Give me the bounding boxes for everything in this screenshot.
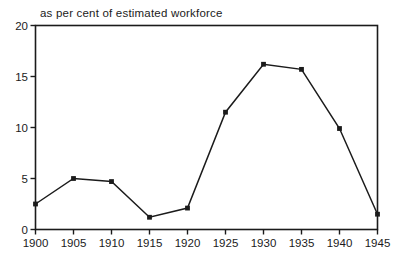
x-tick-label: 1900 xyxy=(23,237,49,249)
plot-box xyxy=(36,26,378,230)
y-tick-label: 0 xyxy=(22,224,28,236)
data-point-marker xyxy=(109,179,114,184)
data-point-marker xyxy=(375,212,380,217)
y-tick-label: 5 xyxy=(22,173,28,185)
x-tick-label: 1945 xyxy=(365,237,391,249)
x-tick-label: 1925 xyxy=(213,237,239,249)
chart-title: as per cent of estimated workforce xyxy=(40,7,223,19)
x-tick-label: 1930 xyxy=(251,237,277,249)
line-chart: 0510152019001905191019151920192519301935… xyxy=(0,0,399,266)
chart-series-layer xyxy=(33,62,380,220)
x-tick-label: 1910 xyxy=(99,237,125,249)
y-tick-label: 20 xyxy=(15,20,28,32)
y-tick-label: 15 xyxy=(15,71,28,83)
data-line xyxy=(36,64,378,217)
data-point-marker xyxy=(147,215,152,220)
data-point-marker xyxy=(223,110,228,115)
chart-figure: 0510152019001905191019151920192519301935… xyxy=(0,0,399,266)
x-tick-label: 1905 xyxy=(61,237,87,249)
data-point-marker xyxy=(71,176,76,181)
data-point-marker xyxy=(337,126,342,131)
data-point-marker xyxy=(261,62,266,67)
x-tick-label: 1935 xyxy=(289,237,315,249)
x-tick-label: 1915 xyxy=(137,237,163,249)
data-point-marker xyxy=(33,202,38,207)
x-tick-label: 1940 xyxy=(327,237,353,249)
y-tick-label: 10 xyxy=(15,122,28,134)
data-point-marker xyxy=(185,206,190,211)
chart-axes-layer: 0510152019001905191019151920192519301935… xyxy=(15,20,390,250)
x-tick-label: 1920 xyxy=(175,237,201,249)
data-point-marker xyxy=(299,67,304,72)
